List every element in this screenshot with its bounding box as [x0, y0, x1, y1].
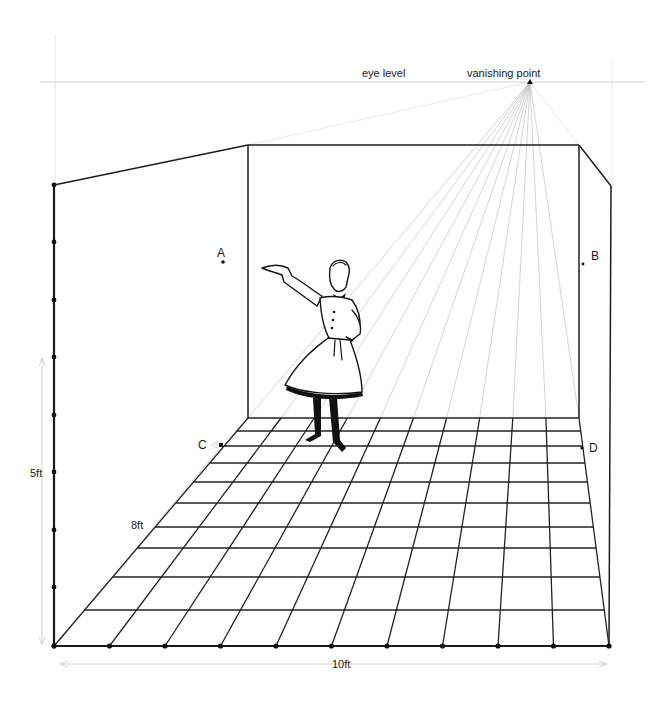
vanishing-ray [480, 82, 530, 418]
annotation-labels: eye level vanishing point 5ft 8ft 10ft [30, 67, 540, 670]
raised-arm [262, 265, 322, 306]
width-tick-dot [495, 643, 500, 648]
button [332, 319, 335, 322]
perspective-diagram: A B C D eye level vanishing point 5ft 8f… [0, 0, 658, 717]
diagram-canvas: A B C D eye level vanishing point 5ft 8f… [0, 0, 658, 717]
height-tick-dot [52, 470, 57, 475]
vanishing-ray [248, 82, 530, 418]
point-d-marker [580, 446, 583, 449]
point-b-marker [582, 263, 585, 266]
vanishing-ray [447, 82, 530, 418]
button [333, 311, 336, 314]
height-tick-dot [52, 298, 57, 303]
width-tick-dot [551, 643, 556, 648]
point-a-marker [221, 260, 225, 264]
floor-column-line [54, 418, 248, 646]
construction-guides [40, 35, 645, 186]
point-a-label: A [217, 246, 225, 260]
depth-dimension-label: 8ft [131, 519, 143, 531]
floor-column-line [443, 418, 480, 646]
point-c-label: C [198, 438, 207, 452]
floor-column-line [110, 418, 282, 646]
vp-guide-ceiling-left [248, 82, 530, 145]
right-ceiling-edge [579, 145, 611, 186]
width-dimension-label: 10ft [332, 658, 350, 670]
point-d-label: D [589, 441, 598, 455]
width-tick-dot [384, 643, 389, 648]
vanishing-ray [347, 82, 530, 418]
eye-level-label: eye level [362, 67, 405, 79]
height-tick-dot [52, 240, 57, 245]
vanishing-ray [380, 82, 530, 418]
width-tick-dot [218, 643, 223, 648]
floor-column-line [387, 418, 447, 646]
height-tick-dot [52, 183, 57, 188]
vanishing-point-marker-icon [527, 79, 533, 84]
floor-column-line [546, 418, 554, 646]
floor-column-line [332, 418, 414, 646]
height-tick-dot [52, 355, 57, 360]
height-dimension-label: 5ft [30, 467, 42, 479]
vp-guide-ceiling-right [530, 82, 579, 145]
width-tick-dot [606, 643, 611, 648]
height-tick-dot [52, 585, 57, 590]
height-tick-dot [52, 644, 57, 649]
vanishing-point-label: vanishing point [467, 67, 540, 79]
width-tick-dot [162, 643, 167, 648]
point-c-arrow-icon [212, 442, 217, 448]
vanishing-ray [414, 82, 531, 418]
floor-grid [54, 418, 609, 646]
height-tick-dot [52, 528, 57, 533]
width-tick-dot [107, 643, 112, 648]
point-c-marker [219, 443, 223, 447]
width-tick-dot [273, 643, 278, 648]
vanishing-ray [530, 82, 546, 418]
height-tick-dot [52, 413, 57, 418]
point-b-label: B [591, 249, 599, 263]
skirt [285, 338, 362, 394]
left-ceiling-edge [54, 145, 248, 185]
vanishing-ray [513, 82, 530, 418]
width-tick-dot [329, 643, 334, 648]
vanishing-ray [530, 82, 579, 418]
floor-column-line [498, 418, 513, 646]
width-tick-dot [440, 643, 445, 648]
button [331, 327, 334, 330]
front-right-vertical-edge [609, 186, 611, 646]
reference-points: A B C D [198, 246, 599, 455]
